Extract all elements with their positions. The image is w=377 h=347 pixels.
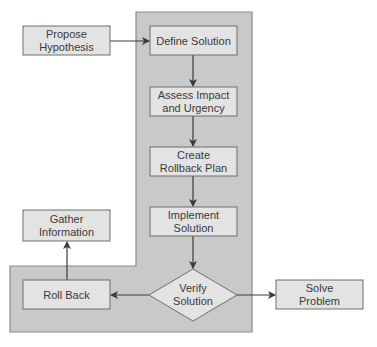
node-label: Information	[39, 226, 94, 238]
node-solve-problem: Solve Problem	[276, 280, 363, 309]
node-assess-impact: Assess Impact and Urgency	[150, 87, 237, 116]
node-label: Verify	[179, 282, 207, 294]
node-label: Propose	[46, 28, 87, 40]
node-label: Define Solution	[156, 35, 231, 47]
node-label: and Urgency	[162, 102, 225, 114]
node-label: Solution	[174, 222, 214, 234]
node-label: Rollback Plan	[160, 162, 227, 174]
node-create-rollback-plan: Create Rollback Plan	[150, 147, 237, 176]
node-label: Gather	[50, 213, 84, 225]
flowchart-canvas: Propose Hypothesis Define Solution Asses…	[0, 0, 377, 347]
node-implement-solution: Implement Solution	[150, 207, 237, 236]
node-label: Assess Impact	[158, 89, 230, 101]
node-gather-information: Gather Information	[23, 210, 110, 241]
node-propose-hypothesis: Propose Hypothesis	[23, 26, 110, 55]
node-label: Solve	[306, 282, 334, 294]
node-label: Roll Back	[43, 289, 90, 301]
node-label: Hypothesis	[39, 41, 94, 53]
node-label: Problem	[299, 295, 340, 307]
node-label: Solution	[173, 295, 213, 307]
node-label: Create	[177, 149, 210, 161]
node-define-solution: Define Solution	[150, 26, 237, 55]
node-label: Implement	[168, 209, 219, 221]
node-roll-back: Roll Back	[23, 280, 110, 309]
